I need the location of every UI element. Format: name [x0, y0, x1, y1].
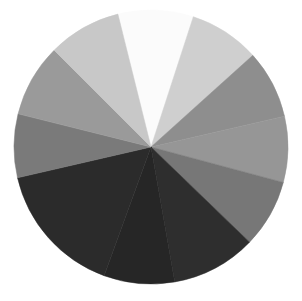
pie-chart	[0, 0, 302, 301]
pie-chart-canvas	[0, 0, 302, 301]
